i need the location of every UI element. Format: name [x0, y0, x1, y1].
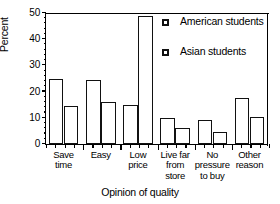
bar	[49, 79, 64, 145]
x-axis-minor-tick	[213, 144, 214, 148]
x-axis-minor-tick	[195, 144, 196, 148]
y-axis-title: Percent	[0, 17, 10, 52]
x-axis-minor-tick	[102, 144, 103, 148]
x-axis-minor-tick	[269, 144, 270, 148]
x-axis-minor-tick	[167, 144, 168, 148]
x-axis-minor-tick	[120, 144, 121, 148]
bar	[175, 128, 190, 144]
x-axis-category-label: Easy	[82, 150, 119, 160]
open-square-icon	[162, 49, 169, 56]
y-axis-tick-label: 20	[29, 87, 40, 97]
x-axis-minor-tick	[130, 144, 131, 148]
x-axis-category-labels: SavetimeEasyLowpriceLive farfromstoreNop…	[45, 150, 268, 188]
bar	[198, 120, 213, 144]
y-axis-tick-label: 50	[29, 8, 40, 18]
x-axis-minor-tick	[204, 144, 205, 148]
x-axis-title: Opinion of quality	[0, 186, 280, 198]
bar-group-container	[46, 14, 268, 144]
bar	[250, 117, 265, 145]
x-axis-category-label: Savetime	[45, 150, 82, 171]
x-axis-minor-tick	[65, 144, 66, 148]
x-axis-minor-tick	[83, 144, 84, 148]
x-axis-minor-tick	[74, 144, 75, 148]
bar	[235, 98, 250, 144]
x-axis-minor-tick	[232, 144, 233, 148]
x-axis-minor-tick	[148, 144, 149, 148]
x-axis-category-label: Live farfromstore	[157, 150, 194, 181]
x-axis-minor-tick	[260, 144, 261, 148]
bar	[213, 132, 228, 144]
bar	[160, 118, 175, 144]
bar	[123, 105, 138, 144]
x-axis-minor-tick	[92, 144, 93, 148]
chart-figure: Percent 01020304050 SavetimeEasyLowprice…	[0, 0, 280, 204]
x-axis-minor-tick	[55, 144, 56, 148]
y-axis-tick-label: 10	[29, 113, 40, 123]
x-axis-minor-tick	[223, 144, 224, 148]
x-axis-minor-tick	[241, 144, 242, 148]
y-axis-tick	[42, 12, 46, 13]
x-axis-minor-tick	[185, 144, 186, 148]
bar	[138, 16, 153, 144]
x-axis-category-label: Otherreason	[231, 150, 268, 171]
x-axis-minor-tick	[139, 144, 140, 148]
y-axis-tick-label: 0	[35, 139, 40, 149]
x-axis-category-label: Lowprice	[119, 150, 156, 171]
legend-label: American students	[180, 15, 264, 28]
x-axis-minor-tick	[111, 144, 112, 148]
open-square-icon	[162, 19, 169, 26]
bar	[64, 106, 79, 144]
x-axis-minor-tick	[176, 144, 177, 148]
y-axis-tick-label: 40	[29, 34, 40, 44]
bar	[101, 102, 116, 144]
x-axis-category-label: Nopressureto buy	[194, 150, 231, 181]
x-axis-minor-tick	[46, 144, 47, 148]
y-axis-tick-label: 30	[29, 60, 40, 70]
x-axis-minor-tick	[250, 144, 251, 148]
bar	[86, 80, 101, 144]
legend-label: Asian students	[180, 45, 246, 58]
plot-area: 01020304050	[45, 14, 268, 145]
x-axis-minor-tick	[158, 144, 159, 148]
